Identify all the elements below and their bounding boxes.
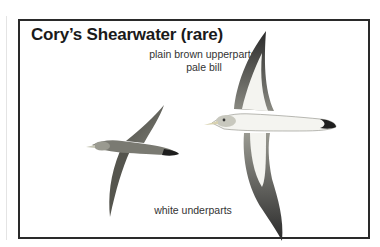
shearwater-upperside-illustration (86, 99, 196, 221)
shearwater-underside-illustration (202, 29, 342, 241)
illustration-frame: Cory’s Shearwater (rare) plain brown upp… (18, 19, 370, 239)
figure-title: Cory’s Shearwater (rare) (31, 25, 223, 45)
page-gutter-line (6, 16, 7, 240)
